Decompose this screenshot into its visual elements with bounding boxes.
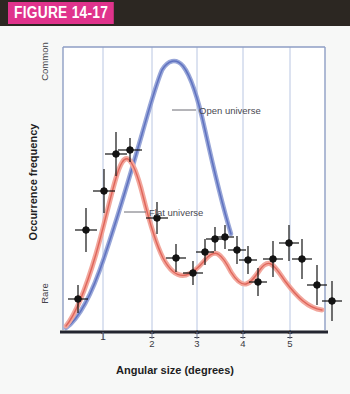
open-universe-label: Open universe [199, 105, 261, 116]
figure-banner: FIGURE 14-17 [0, 0, 350, 26]
flat-universe-label: Flat universe [149, 207, 203, 218]
figure-card: Occurrence frequency Common Rare 1 1 2 1… [0, 26, 350, 394]
plot-area: Open universe Flat universe [0, 26, 350, 394]
figure-container: FIGURE 14-17 Occurrence frequency Common… [0, 0, 350, 394]
figure-number-tag: FIGURE 14-17 [8, 2, 114, 24]
